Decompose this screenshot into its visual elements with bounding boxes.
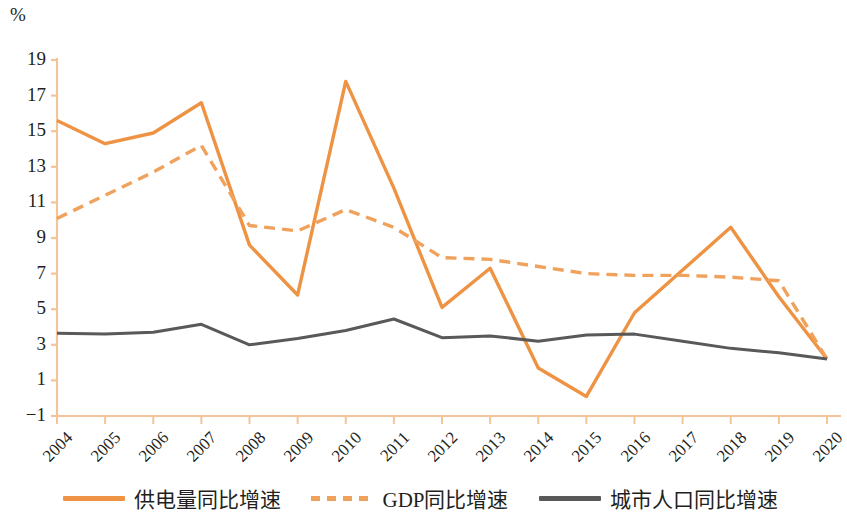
y-axis-tick-label: 1: [8, 368, 46, 390]
series-line-1: [57, 145, 827, 359]
y-axis-tick-label: 9: [8, 226, 46, 248]
legend-item-power-supply[interactable]: 供电量同比增速: [63, 483, 281, 513]
legend-swatch-dashed-orange-icon: [311, 496, 373, 501]
y-axis-tick-label: 7: [8, 262, 46, 284]
legend-label-power-supply: 供电量同比增速: [134, 483, 281, 513]
chart-series: [57, 81, 827, 396]
chart-legend: 供电量同比增速 GDP同比增速 城市人口同比增速: [0, 483, 841, 513]
chart-axes: [51, 58, 841, 424]
legend-item-urban-population[interactable]: 城市人口同比增速: [539, 483, 778, 513]
series-line-2: [57, 319, 827, 359]
y-axis-tick-label: 13: [8, 155, 46, 177]
legend-swatch-solid-orange-icon: [63, 496, 125, 501]
series-line-0: [57, 81, 827, 396]
y-axis-tick-label: −1: [8, 404, 46, 426]
y-axis-tick-label: 3: [8, 333, 46, 355]
y-axis-tick-label: 15: [8, 119, 46, 141]
legend-item-gdp[interactable]: GDP同比增速: [311, 483, 508, 513]
y-axis-tick-label: 17: [8, 84, 46, 106]
legend-label-gdp: GDP同比增速: [382, 483, 508, 513]
legend-swatch-solid-gray-icon: [539, 496, 601, 501]
y-axis-tick-label: 5: [8, 297, 46, 319]
legend-label-urban-population: 城市人口同比增速: [610, 483, 778, 513]
y-axis-tick-label: 11: [8, 190, 46, 212]
y-axis-tick-label: 19: [8, 48, 46, 70]
